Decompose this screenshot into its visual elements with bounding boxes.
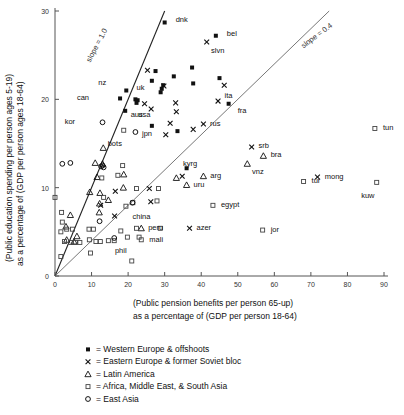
marker-open-square (59, 230, 63, 234)
point-label-rus: rus (210, 119, 221, 128)
point-label-kyrg: kyrg (183, 159, 197, 168)
marker-filled-square (118, 96, 122, 100)
marker-circle (133, 130, 138, 135)
marker-x-cross (145, 68, 150, 73)
point-label-uk: uk (137, 83, 145, 92)
x-tick-label: 50 (234, 281, 242, 288)
marker-open-square (135, 187, 139, 191)
marker-triangle (200, 173, 206, 179)
point-label-bra: bra (271, 150, 283, 159)
marker-open-square (261, 228, 265, 232)
marker-open-square (156, 187, 160, 191)
marker-triangle (244, 161, 250, 167)
marker-filled-square (86, 347, 90, 351)
marker-circle (68, 161, 73, 166)
y-tick-label: 10 (41, 185, 49, 192)
marker-open-square (102, 195, 106, 199)
marker-filled-square (150, 124, 154, 128)
marker-triangle (100, 145, 106, 151)
marker-filled-square (150, 79, 154, 83)
marker-open-square (130, 259, 134, 263)
marker-triangle (94, 174, 100, 180)
marker-x-cross (191, 127, 196, 132)
y-tick-label: 0 (45, 273, 49, 280)
x-tick-label: 40 (197, 281, 205, 288)
point-label-kuw: kuw (361, 191, 375, 200)
marker-filled-square (163, 20, 167, 24)
chart-legend: = Western Europe & offshoots= Eastern Eu… (85, 344, 242, 404)
marker-open-square (60, 220, 64, 224)
marker-open-square (98, 240, 102, 244)
marker-x-cross (173, 100, 178, 105)
marker-open-square (375, 180, 379, 184)
x-tick-label: 10 (88, 281, 96, 288)
legend-label-2: = Latin America (96, 369, 155, 379)
point-label-bots: bots (108, 139, 122, 148)
point-label-dnk: dnk (176, 15, 188, 24)
point-label-can: can (77, 93, 89, 102)
legend-label-1: = Eastern Europe & former Soviet bloc (96, 356, 242, 366)
y-tick-label: 20 (41, 96, 49, 103)
point-label-phil: phil (115, 246, 127, 255)
marker-filled-square (191, 81, 195, 85)
marker-triangle (92, 160, 98, 166)
x-tick-label: 70 (307, 281, 315, 288)
point-label-usa: usa (138, 110, 151, 119)
marker-open-square (88, 251, 92, 255)
point-label-kor: kor (65, 117, 76, 126)
marker-triangle (85, 371, 91, 377)
x-tick-label: 20 (124, 281, 132, 288)
marker-x-cross (147, 186, 152, 191)
marker-triangle (67, 212, 73, 218)
marker-triangle (121, 171, 127, 177)
marker-open-square (60, 210, 64, 214)
marker-open-square (94, 240, 98, 244)
marker-triangle (184, 182, 190, 188)
marker-filled-square (227, 102, 231, 106)
point-label-jpn: jpn (141, 129, 152, 138)
marker-open-square (78, 240, 82, 244)
point-label-bel: bel (227, 29, 237, 38)
marker-open-square (121, 164, 125, 168)
x-tick-label: 60 (270, 281, 278, 288)
y-axis-title-line1: (Public education spending per person ag… (4, 74, 14, 262)
point-label-china: china (132, 212, 151, 221)
marker-triangle (74, 233, 80, 239)
marker-x-cross (163, 132, 168, 137)
marker-open-square (91, 227, 95, 231)
marker-open-square (302, 179, 306, 183)
marker-x-cross (222, 83, 227, 88)
marker-triangle (96, 209, 102, 215)
marker-open-square (106, 239, 110, 243)
point-label-ita: ita (225, 91, 234, 100)
marker-open-square (87, 227, 91, 231)
marker-filled-square (124, 89, 128, 93)
marker-circle (112, 236, 117, 241)
marker-filled-square (172, 74, 176, 78)
marker-open-square (119, 229, 123, 233)
marker-triangle (97, 190, 103, 196)
point-label-egypt: egypt (221, 200, 240, 209)
marker-open-square (155, 199, 159, 203)
marker-filled-square (214, 34, 218, 38)
marker-x-cross (201, 122, 206, 127)
x-axis-title-line2: as a percentage of (GDP per person 18-64… (133, 311, 297, 321)
point-label-fra: fra (238, 106, 248, 115)
marker-filled-square (123, 109, 127, 113)
marker-triangle (173, 175, 179, 181)
marker-triangle (71, 238, 77, 244)
legend-label-0: = Western Europe & offshoots (96, 344, 209, 354)
marker-filled-square (135, 101, 139, 105)
marker-circle (86, 397, 91, 402)
marker-circle (100, 120, 105, 125)
marker-circle (97, 219, 102, 224)
point-label-peru: peru (148, 223, 163, 232)
marker-open-square (116, 173, 120, 177)
y-axis-title-line2: as a percentage of (GDP per person ages … (15, 81, 25, 266)
marker-open-square (211, 203, 215, 207)
marker-x-cross (142, 101, 147, 106)
y-axis-title: (Public education spending per person ag… (4, 74, 25, 266)
point-label-tur: tur (312, 176, 321, 185)
marker-triangle (260, 153, 266, 159)
chart-canvas: 01020304050607080900102030 dnkbelnzcanuk… (0, 0, 404, 415)
